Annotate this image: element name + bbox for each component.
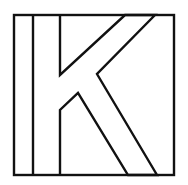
k-letter-outline <box>60 15 157 175</box>
k-logo-diagram <box>0 0 188 185</box>
square-frame <box>14 15 174 175</box>
